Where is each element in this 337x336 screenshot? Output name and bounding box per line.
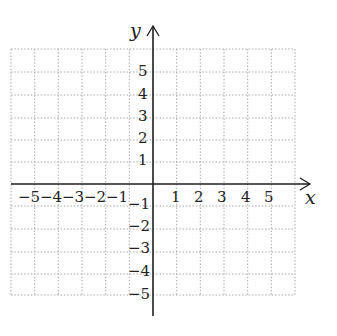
y-tick-label: 3: [138, 109, 148, 124]
grid-svg: [0, 0, 337, 336]
coordinate-plane: y x 5 4 3 2 1 −1 −2 −3 −4 −5 −5 −4 −3 −2…: [0, 0, 337, 336]
y-tick-label: 2: [138, 131, 148, 146]
y-tick-label: 5: [138, 64, 148, 79]
y-tick-label: −5: [128, 287, 150, 302]
x-tick-label: −4: [40, 190, 62, 205]
axes: [11, 26, 310, 316]
x-tick-label: 3: [217, 190, 227, 205]
y-tick-label: −1: [128, 197, 150, 212]
x-tick-label: 5: [264, 190, 274, 205]
x-tick-label: −5: [18, 190, 40, 205]
x-axis-label: x: [305, 188, 316, 207]
x-tick-label: 1: [171, 190, 181, 205]
x-tick-label: −1: [106, 190, 128, 205]
y-tick-label: −3: [128, 241, 150, 256]
y-axis-label: y: [130, 21, 141, 40]
y-tick-label: 1: [138, 153, 148, 168]
x-tick-label: 2: [194, 190, 204, 205]
y-tick-label: −4: [128, 264, 150, 279]
y-tick-label: −2: [128, 219, 150, 234]
x-tick-label: 4: [241, 190, 251, 205]
y-tick-label: 4: [138, 87, 148, 102]
x-tick-label: −2: [84, 190, 106, 205]
x-tick-label: −3: [62, 190, 84, 205]
